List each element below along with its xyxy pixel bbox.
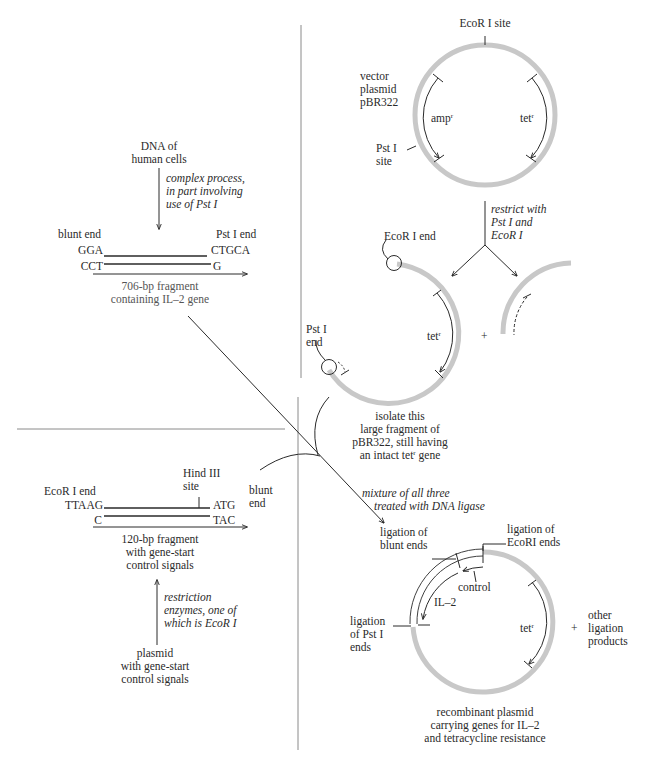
ecori-end-label: EcoR I end [384,230,436,243]
tet-gene-label-fragment: tetr [427,330,441,343]
restrict-label: restrict withPst I andEcoR I [491,203,546,242]
isolate-label: isolate this large fragment of pBR322, s… [330,410,470,462]
psti-partial-gene-arrow [338,362,345,372]
psti-site-tick [407,146,416,150]
control-label: control [458,581,491,594]
tet-gene-label-top: tetr [520,112,534,125]
control-arrow [463,567,483,571]
plus-sign-fragments: + [481,330,488,343]
human-dna-process-label: complex process,in part involvinguse of … [166,172,245,211]
tet-gene-label-recombinant: tetr [520,622,534,635]
fragment-706-label: 706-bp fragmentcontaining IL–2 gene [95,280,225,306]
psti-site-label: Pst Isite [376,142,397,168]
curve-from-control-fragment [260,454,320,470]
control-seq-top-right: ATG [213,499,235,512]
psti-end-label-fragment: Pst Iend [306,323,327,349]
fragment-120-label: 120-bp fragmentwith gene-startcontrol si… [95,533,225,572]
other-products-label: otherligationproducts [588,609,628,648]
seq-bottom-right: G [213,260,221,273]
human-dna-source-label: DNA ofhuman cells [119,140,199,166]
hind-site-label: Hind IIIsite [183,467,220,493]
seq-top-left: GGA [60,244,103,257]
blunt-end-label: blunt end [58,228,101,241]
amp-gene-label: ampr [431,112,453,125]
restrict-arrow-right [485,245,517,276]
blunt-ligation-label: ligation ofblunt ends [380,526,428,552]
mixture-label: mixture of all three treated with DNA li… [362,487,485,513]
vector-name-label: vectorplasmidpBR322 [360,70,398,109]
small-fragment-dashed-gene [514,297,527,335]
diagram-canvas [0,0,647,762]
control-source-label: plasmidwith gene-startcontrol signals [105,647,205,686]
small-fragment-arc [503,263,571,334]
control-seq-bottom-right: TAC [213,514,235,527]
psti-ligation-label: ligationof Pst Iends [350,615,385,654]
psti-end-label: Pst I end [216,228,256,241]
curve-from-large-fragment [315,397,329,455]
seq-bottom-left: CCT [60,260,103,273]
plus-sign-ligation: + [571,622,578,635]
ecori-site-label: EcoR I site [440,17,530,30]
seq-top-right: CTGCA [211,244,250,257]
restriction-process-label: restrictionenzymes, one ofwhich is EcoR … [164,591,237,630]
control-seq-bottom-left: C [40,514,102,527]
recombinant-result-label: recombinant plasmidcarrying genes for IL… [410,706,560,745]
control-seq-top-left: TTAAG [40,499,103,512]
control-blunt-end-label: bluntend [249,484,273,510]
control-ecori-end-label: EcoR I end [44,485,96,498]
il2-label: IL–2 [434,596,456,609]
ecori-ligation-label: ligation ofEcoRI ends [507,523,560,549]
restrict-arrow-left [452,245,485,276]
